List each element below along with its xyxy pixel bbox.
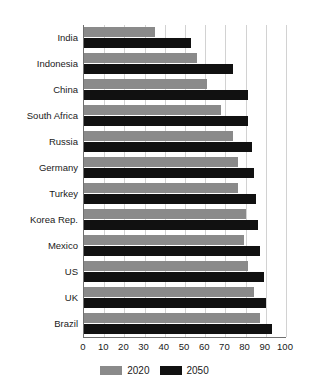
bar-2020 bbox=[84, 53, 197, 63]
plot-area bbox=[83, 25, 286, 338]
category-label: Russia bbox=[0, 129, 78, 155]
legend-item-2050[interactable]: 2050 bbox=[160, 365, 209, 376]
bar-2050 bbox=[84, 116, 248, 126]
bar-2050 bbox=[84, 38, 191, 48]
bar-group bbox=[84, 181, 286, 207]
bar-2050 bbox=[84, 220, 258, 230]
chart-title bbox=[0, 0, 309, 12]
bar-2020 bbox=[84, 313, 260, 323]
bar-2020 bbox=[84, 27, 155, 37]
category-label: US bbox=[0, 259, 78, 285]
bar-group bbox=[84, 207, 286, 233]
category-label: India bbox=[0, 25, 78, 51]
chart-legend: 20202050 bbox=[0, 362, 309, 378]
bar-2020 bbox=[84, 287, 254, 297]
legend-label: 2050 bbox=[187, 365, 209, 376]
category-label: UK bbox=[0, 285, 78, 311]
bar-group bbox=[84, 129, 286, 155]
bar-2020 bbox=[84, 235, 244, 245]
bar-group bbox=[84, 285, 286, 311]
category-label: Korea Rep. bbox=[0, 207, 78, 233]
category-label: Brazil bbox=[0, 311, 78, 337]
category-label: China bbox=[0, 77, 78, 103]
gridline bbox=[286, 25, 287, 337]
bar-chart: IndiaIndonesiaChinaSouth AfricaRussiaGer… bbox=[0, 0, 309, 382]
legend-swatch-icon bbox=[160, 366, 182, 375]
bar-2050 bbox=[84, 246, 260, 256]
category-label: Turkey bbox=[0, 181, 78, 207]
bar-2050 bbox=[84, 298, 266, 308]
bar-group bbox=[84, 233, 286, 259]
bar-2050 bbox=[84, 272, 264, 282]
bar-group bbox=[84, 259, 286, 285]
bar-group bbox=[84, 77, 286, 103]
legend-swatch-icon bbox=[100, 366, 122, 375]
bar-2050 bbox=[84, 194, 256, 204]
bar-2050 bbox=[84, 168, 254, 178]
bar-2050 bbox=[84, 64, 233, 74]
bar-2020 bbox=[84, 131, 233, 141]
bar-group bbox=[84, 155, 286, 181]
bar-2020 bbox=[84, 157, 238, 167]
bar-2020 bbox=[84, 209, 246, 219]
legend-item-2020[interactable]: 2020 bbox=[100, 365, 149, 376]
bar-2020 bbox=[84, 261, 248, 271]
category-label: South Africa bbox=[0, 103, 78, 129]
bar-2020 bbox=[84, 183, 238, 193]
bar-group bbox=[84, 25, 286, 51]
bar-group bbox=[84, 103, 286, 129]
category-label: Indonesia bbox=[0, 51, 78, 77]
category-label: Germany bbox=[0, 155, 78, 181]
bar-group bbox=[84, 311, 286, 337]
bar-2050 bbox=[84, 90, 248, 100]
tick-label: 100 bbox=[270, 341, 300, 352]
category-label: Mexico bbox=[0, 233, 78, 259]
bar-2020 bbox=[84, 105, 221, 115]
bar-2050 bbox=[84, 324, 272, 334]
bar-2020 bbox=[84, 79, 207, 89]
bar-group bbox=[84, 51, 286, 77]
legend-label: 2020 bbox=[127, 365, 149, 376]
bar-2050 bbox=[84, 142, 252, 152]
